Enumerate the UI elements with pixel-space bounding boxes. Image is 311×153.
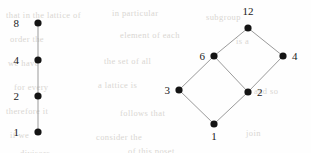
node-4 xyxy=(279,52,286,59)
node-label-12: 12 xyxy=(243,5,254,17)
hasse-diagram-figure: that in the lattice ofin particularsubgr… xyxy=(0,0,311,153)
edge-d1-d2 xyxy=(214,92,248,124)
hasse-diagram-canvas: 8421 1264321 xyxy=(0,0,311,153)
node-label-2: 2 xyxy=(14,90,20,102)
node-label-1: 1 xyxy=(14,126,20,138)
node-1 xyxy=(210,120,217,127)
node-1 xyxy=(34,128,41,135)
edge-d2-d4 xyxy=(248,56,283,92)
divisor-lattice-nodes: 1264321 xyxy=(165,5,299,142)
node-label-1: 1 xyxy=(211,130,217,142)
edge-d4-d12 xyxy=(248,28,283,56)
node-8 xyxy=(34,19,41,26)
divisor-lattice-edges xyxy=(179,28,283,124)
node-label-4: 4 xyxy=(14,54,20,66)
edge-d2-d6 xyxy=(214,56,248,92)
node-label-2: 2 xyxy=(257,86,263,98)
node-6 xyxy=(210,52,217,59)
chain-lattice-nodes: 8421 xyxy=(14,17,42,138)
node-2 xyxy=(34,92,41,99)
edge-d1-d3 xyxy=(179,90,214,124)
node-label-6: 6 xyxy=(200,50,206,62)
node-4 xyxy=(34,56,41,63)
node-label-8: 8 xyxy=(14,17,20,29)
node-2 xyxy=(244,88,251,95)
node-label-4: 4 xyxy=(292,50,298,62)
edge-d6-d12 xyxy=(214,28,248,56)
node-3 xyxy=(175,86,182,93)
edge-d3-d6 xyxy=(179,56,214,90)
node-label-3: 3 xyxy=(165,84,171,96)
node-12 xyxy=(244,24,251,31)
